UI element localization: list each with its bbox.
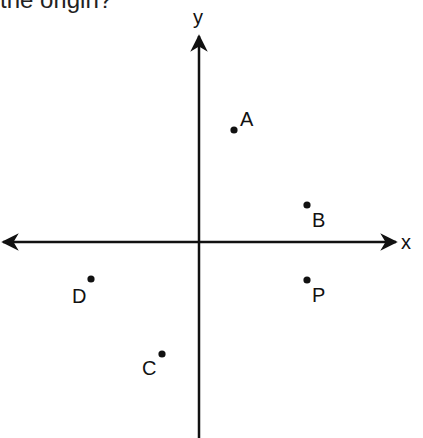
- x-axis-label: x: [401, 231, 411, 253]
- point-dot: [230, 126, 237, 133]
- point-label: B: [312, 209, 325, 231]
- point-d: D: [72, 275, 95, 307]
- y-axis-label: y: [193, 6, 203, 28]
- coordinate-plane: x y ABPDC: [0, 0, 423, 438]
- point-c: C: [142, 350, 166, 379]
- point-dot: [303, 276, 310, 283]
- point-label: P: [312, 284, 325, 306]
- point-label: A: [240, 108, 254, 130]
- point-label: C: [142, 357, 156, 379]
- point-dot: [158, 350, 165, 357]
- point-p: P: [303, 276, 325, 306]
- point-b: B: [303, 201, 325, 231]
- point-label: D: [72, 285, 86, 307]
- point-a: A: [230, 108, 254, 134]
- point-dot: [303, 201, 310, 208]
- point-dot: [87, 275, 94, 282]
